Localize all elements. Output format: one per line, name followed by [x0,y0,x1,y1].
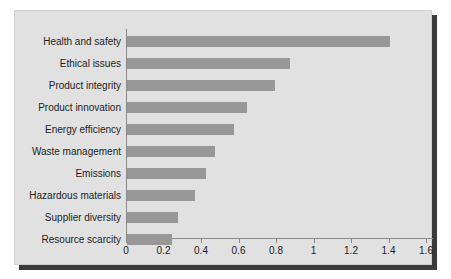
category-label: Resource scarcity [23,234,126,245]
category-label-row: Emissions [15,168,126,179]
plot-area: 00.20.40.60.811.21.41.6 Health and safet… [15,11,431,264]
category-label-row: Waste management [15,146,126,157]
x-tick-label: 1.6 [411,245,441,257]
category-label: Health and safety [23,36,126,47]
category-label: Hazardous materials [23,190,126,201]
category-label-row: Supplier diversity [15,212,126,223]
category-label: Product innovation [23,102,126,113]
x-tick-label: 1 [299,245,329,257]
x-tick-label: 1.2 [336,245,366,257]
category-label: Product integrity [23,80,126,91]
x-tick-mark [276,239,277,243]
x-tick-mark [351,239,352,243]
category-label: Supplier diversity [23,212,126,223]
x-tick-mark [201,239,202,243]
category-label-row: Hazardous materials [15,190,126,201]
bar [127,234,172,245]
x-tick-mark [314,239,315,243]
category-label-row: Energy efficiency [15,124,126,135]
x-tick-mark [389,239,390,243]
category-label: Ethical issues [23,58,126,69]
bar [127,58,290,69]
category-label: Energy efficiency [23,124,126,135]
bar [127,36,390,47]
x-tick-label: 0.4 [186,245,216,257]
x-tick-label: 0.2 [149,245,179,257]
x-tick-label: 1.4 [374,245,404,257]
x-tick-mark [426,239,427,243]
bar [127,124,234,135]
x-tick-mark [239,239,240,243]
chart-screenshot: 00.20.40.60.811.21.41.6 Health and safet… [0,0,451,279]
x-tick-label: 0.6 [224,245,254,257]
bar [127,190,195,201]
category-label-row: Product innovation [15,102,126,113]
category-label-row: Ethical issues [15,58,126,69]
x-tick-label: 0.8 [261,245,291,257]
bar [127,80,275,91]
x-tick-label: 0 [111,245,141,257]
category-label-row: Resource scarcity [15,234,126,245]
chart-panel: 00.20.40.60.811.21.41.6 Health and safet… [14,10,432,265]
bar [127,146,215,157]
x-axis-line [126,238,433,239]
category-label-row: Product integrity [15,80,126,91]
bar [127,102,247,113]
category-label-row: Health and safety [15,36,126,47]
bar [127,212,178,223]
bar [127,168,206,179]
category-label: Waste management [23,146,126,157]
category-label: Emissions [23,168,126,179]
